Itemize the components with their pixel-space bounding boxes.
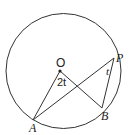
- circle-theorem-diagram: O P B A 2t t: [0, 0, 129, 135]
- segment-OB: [60, 71, 102, 108]
- label-O: O: [56, 56, 65, 70]
- label-P: P: [115, 51, 124, 65]
- angle-label-AOB: 2t: [57, 76, 66, 88]
- label-A: A: [28, 121, 37, 135]
- segment-OA: [33, 71, 60, 120]
- label-B: B: [101, 109, 109, 123]
